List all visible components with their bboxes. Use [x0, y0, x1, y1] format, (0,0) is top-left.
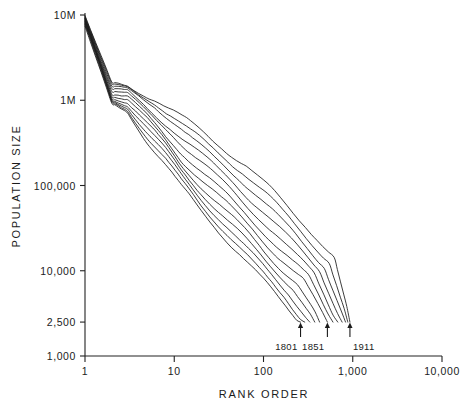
- series-curve-1911: [85, 16, 350, 323]
- x-axis: 1101001,00010,000: [82, 356, 460, 377]
- annotation-arrowhead-1851: [325, 323, 330, 329]
- series-curve-1861: [85, 20, 333, 322]
- x-tick-label: 100: [254, 365, 273, 377]
- y-tick-label: 2,500: [47, 316, 76, 328]
- x-tick-label: 1,000: [338, 365, 367, 377]
- series-curves: [85, 16, 350, 323]
- annotation-arrowhead-1801: [298, 323, 303, 329]
- series-curve-1841: [85, 21, 320, 322]
- series-curve-1821: [85, 23, 310, 322]
- series-curve-1811: [85, 24, 305, 322]
- x-axis-title: RANK ORDER: [219, 388, 309, 400]
- annotation-label-1851: 1851: [302, 341, 324, 352]
- series-curve-1891: [85, 17, 346, 322]
- rank-size-log-log-plot: 10M1M100,00010,0002,5001,000 1101001,000…: [0, 0, 465, 408]
- y-axis: 10M1M100,00010,0002,5001,000: [34, 9, 85, 362]
- y-axis-title: POPULATION SIZE: [10, 124, 22, 247]
- year-annotations: 180118511911: [275, 323, 374, 352]
- series-curve-1901: [85, 16, 348, 322]
- x-tick-label: 10,000: [424, 365, 460, 377]
- x-tick-label: 10: [168, 365, 181, 377]
- series-curve-1831: [85, 22, 315, 322]
- annotation-arrowhead-1911: [347, 323, 352, 329]
- y-tick-label: 100,000: [34, 180, 76, 192]
- y-tick-label: 10,000: [40, 265, 76, 277]
- annotation-label-1911: 1911: [353, 341, 375, 352]
- annotation-label-1801: 1801: [275, 341, 297, 352]
- series-curve-1871: [85, 19, 338, 322]
- y-tick-label: 10M: [54, 9, 76, 21]
- series-curve-1881: [85, 18, 342, 322]
- x-tick-label: 1: [82, 365, 88, 377]
- series-curve-1851: [85, 21, 327, 322]
- y-tick-label: 1,000: [47, 350, 76, 362]
- y-tick-label: 1M: [60, 94, 76, 106]
- chart-figure: 10M1M100,00010,0002,5001,000 1101001,000…: [0, 0, 465, 408]
